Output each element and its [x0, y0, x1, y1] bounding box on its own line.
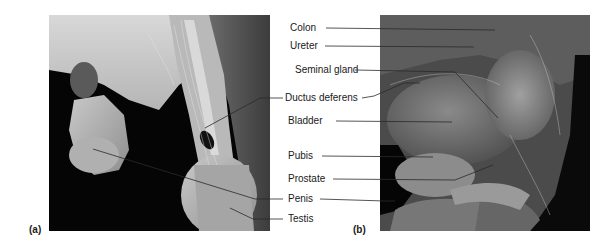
- photo-panel-a: [49, 15, 270, 231]
- label-seminal-gland: Seminal gland: [295, 64, 358, 76]
- label-penis: Penis: [288, 193, 313, 205]
- label-ductus-deferens: Ductus deferens: [285, 92, 358, 104]
- label-prostate: Prostate: [288, 173, 325, 185]
- panel-letter-b: (b): [353, 224, 366, 235]
- label-bladder: Bladder: [288, 115, 322, 127]
- label-colon: Colon: [290, 22, 316, 34]
- label-pubis: Pubis: [288, 150, 313, 162]
- label-ureter: Ureter: [290, 40, 318, 52]
- photo-panel-b: [380, 15, 590, 231]
- label-testis: Testis: [288, 213, 314, 225]
- panel-letter-a: (a): [29, 224, 41, 235]
